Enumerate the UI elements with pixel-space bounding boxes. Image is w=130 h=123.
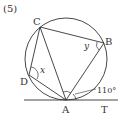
label-D: D (20, 76, 28, 87)
angle-x-label: x (40, 65, 45, 75)
angle-y-label: y (83, 41, 90, 51)
angle-110-leader (75, 89, 96, 94)
circle (25, 18, 107, 100)
angle-y-arc (96, 42, 99, 50)
diagonal-CA (40, 27, 66, 100)
quadrilateral-ABCD (29, 27, 104, 100)
diagram-canvas: (5) C B D A T x y 110° (0, 0, 130, 123)
label-A: A (61, 104, 70, 115)
angle-110-label: 110° (97, 86, 116, 95)
geometry-diagram: (5) C B D A T x y 110° (0, 0, 130, 123)
label-T: T (101, 104, 108, 115)
label-C: C (33, 16, 41, 27)
problem-number: (5) (3, 3, 17, 14)
angle-A-arc (63, 91, 71, 93)
label-B: B (105, 36, 112, 47)
